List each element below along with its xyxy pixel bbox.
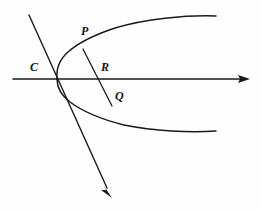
label-point-R: R [101,61,109,73]
label-point-C: C [30,61,38,73]
label-point-Q: Q [115,90,124,102]
label-point-P: P [81,25,88,37]
parabola-lower-branch [57,79,216,132]
horizontal-axis-group [13,75,250,83]
transversal-line [29,15,107,188]
geometry-diagram [0,0,261,211]
figure-canvas: C P R Q [0,0,261,211]
transversal-group [29,15,112,198]
chord-PQ [83,49,112,106]
